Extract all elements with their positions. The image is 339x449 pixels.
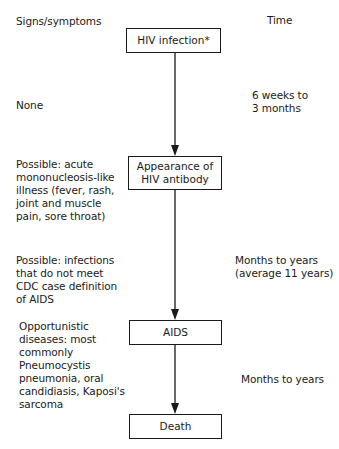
time-aids-to-death: Months to years xyxy=(241,373,324,386)
time-infection-to-antibody: 6 weeks to 3 months xyxy=(252,89,308,115)
stage-hiv-infection: HIV infection* xyxy=(126,28,221,53)
time-antibody-to-aids: Months to years (average 11 years) xyxy=(235,254,333,280)
symptom-pre-aids-infections: Possible: infections that do not meet CD… xyxy=(16,254,117,306)
stage-death: Death xyxy=(129,414,222,439)
stage-hiv-antibody: Appearance of HIV antibody xyxy=(128,156,222,190)
symptom-opportunistic-diseases: Opportunistic diseases: most commonly Pn… xyxy=(19,320,125,411)
symptom-none: None xyxy=(16,99,43,112)
stage-aids: AIDS xyxy=(129,320,222,345)
symptom-acute-illness: Possible: acute mononucleosis-like illne… xyxy=(16,158,114,223)
